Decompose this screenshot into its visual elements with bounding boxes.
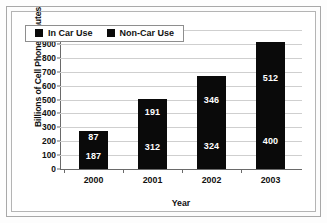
y-tick-mark <box>57 169 60 170</box>
y-tick-label: 600 <box>42 81 56 91</box>
y-tick-label: 100 <box>42 150 56 160</box>
bar-stack[interactable]: 87187 <box>79 131 108 169</box>
plot-area: 01002003004005006007008009001,000 871872… <box>60 30 302 169</box>
bar-value-label: 312 <box>145 142 161 152</box>
legend-swatch-icon <box>35 29 43 37</box>
legend-label: Non-Car Use <box>120 28 175 38</box>
y-tick-label: 500 <box>42 95 56 105</box>
bar-segment[interactable]: 324 <box>197 124 226 169</box>
y-tick-mark <box>57 43 60 44</box>
y-tick-mark <box>57 85 60 86</box>
gridline <box>60 169 302 170</box>
bar-value-label: 187 <box>86 151 102 161</box>
y-tick-label: 400 <box>42 108 56 118</box>
bar-value-label: 346 <box>204 95 220 105</box>
x-tick-label: 2002 <box>202 175 222 185</box>
x-tick-mark <box>64 169 65 173</box>
bar-segment[interactable]: 512 <box>256 42 285 113</box>
y-tick-mark <box>57 113 60 114</box>
chart-screenshot: Billions of Cell Phone Minutes 010020030… <box>0 0 327 223</box>
x-tick-label: 2000 <box>84 175 104 185</box>
legend-item-in-car-use[interactable]: In Car Use <box>35 28 93 38</box>
bar-group: 871872000191312200134632420025124002003 <box>61 30 302 169</box>
y-tick-mark <box>57 155 60 156</box>
x-tick-label: 2001 <box>143 175 163 185</box>
bar-segment[interactable]: 346 <box>197 76 226 124</box>
legend-item-non-car-use[interactable]: Non-Car Use <box>107 28 175 38</box>
bar-segment[interactable]: 187 <box>79 143 108 169</box>
bar-value-label: 191 <box>145 107 161 117</box>
y-tick-label: 800 <box>42 53 56 63</box>
y-tick-mark <box>57 71 60 72</box>
legend: In Car Use Non-Car Use <box>25 25 184 42</box>
y-tick-label: 200 <box>42 136 56 146</box>
legend-label: In Car Use <box>48 28 93 38</box>
x-tick-mark <box>182 169 183 173</box>
x-tick-label: 2003 <box>261 175 281 185</box>
bar-stack[interactable]: 191312 <box>138 99 167 169</box>
bar-value-label: 87 <box>88 132 98 142</box>
bar-value-label: 324 <box>204 141 220 151</box>
chart-frame: Billions of Cell Phone Minutes 010020030… <box>11 11 316 212</box>
x-axis-title: Year <box>60 198 302 208</box>
bar-segment[interactable]: 191 <box>138 99 167 126</box>
x-tick-mark <box>123 169 124 173</box>
bar-value-label: 512 <box>263 73 279 83</box>
y-tick-mark <box>57 57 60 58</box>
x-tick-mark <box>241 169 242 173</box>
y-tick-mark <box>57 127 60 128</box>
bar-segment[interactable]: 87 <box>79 131 108 143</box>
y-tick-mark <box>57 141 60 142</box>
bar-value-label: 400 <box>263 136 279 146</box>
y-tick-mark <box>57 99 60 100</box>
y-tick-label: 700 <box>42 67 56 77</box>
y-tick-label: 0 <box>51 164 56 174</box>
bar-stack[interactable]: 512400 <box>256 42 285 169</box>
legend-swatch-icon <box>107 29 115 37</box>
bar-stack[interactable]: 346324 <box>197 76 226 169</box>
bar-segment[interactable]: 312 <box>138 126 167 169</box>
y-tick-label: 300 <box>42 122 56 132</box>
bar-segment[interactable]: 400 <box>256 113 285 169</box>
